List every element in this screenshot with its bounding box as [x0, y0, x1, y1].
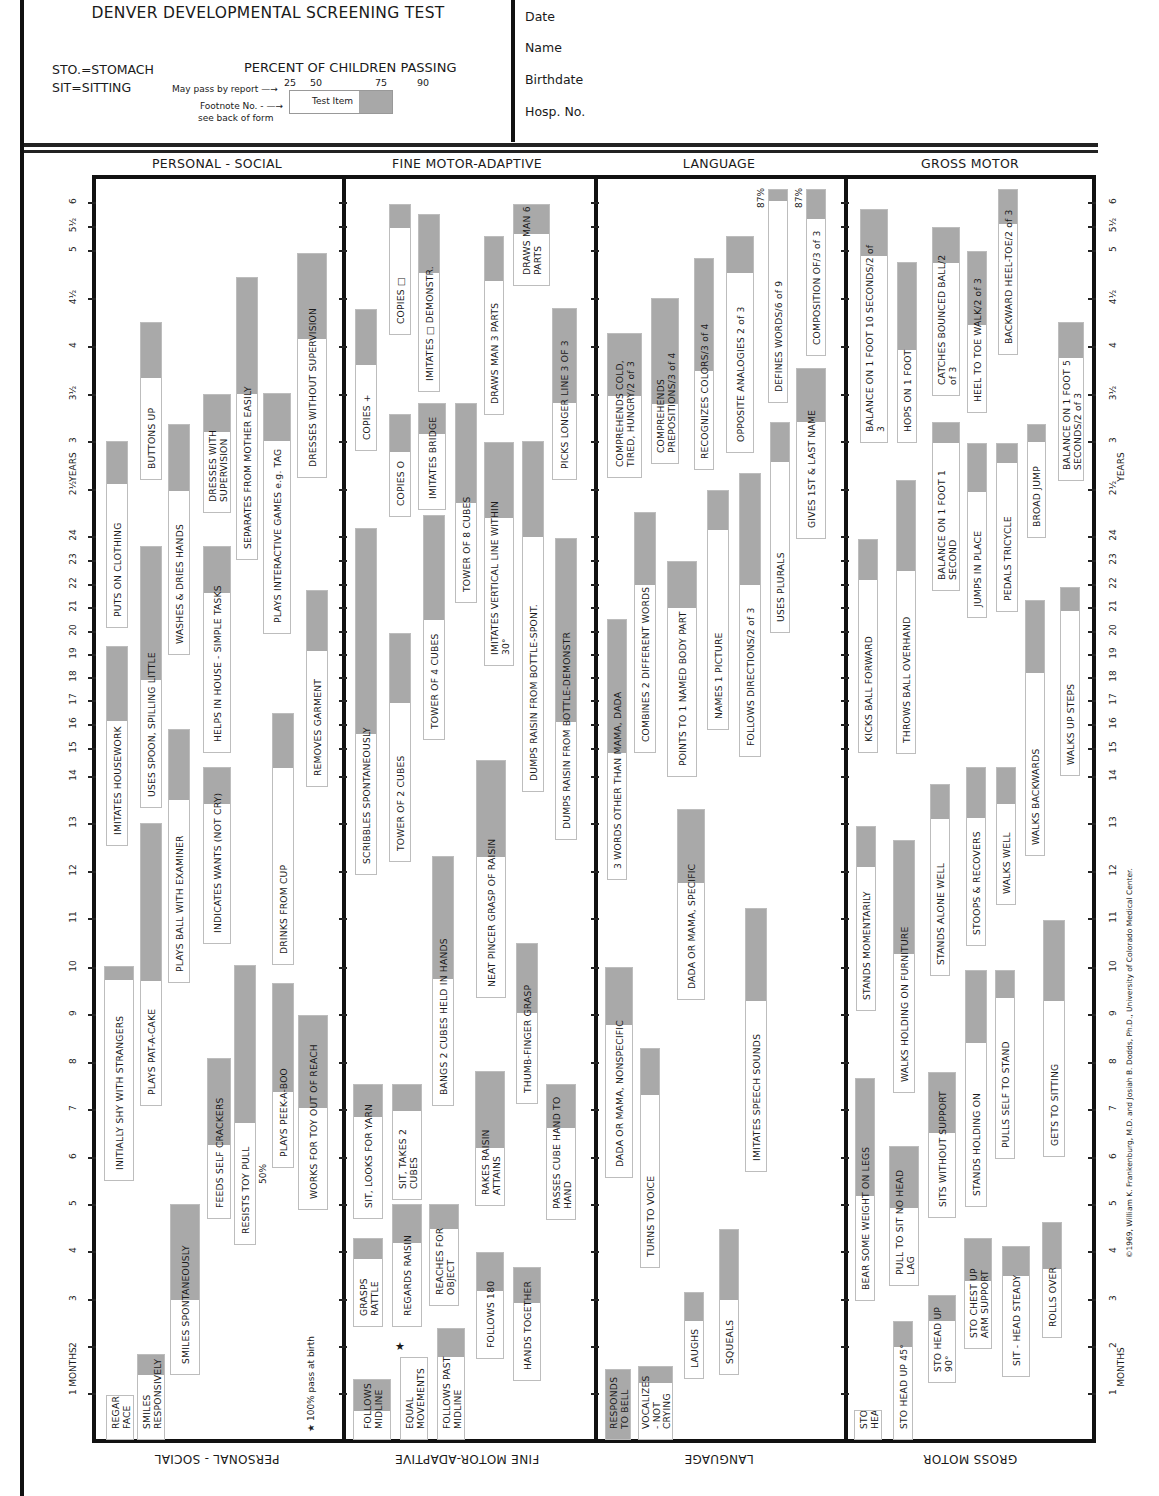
test-item-bar[interactable]: LAUGHS [684, 1292, 704, 1379]
test-item-bar[interactable]: BEAR SOME WEIGHT ON LEGS [855, 1078, 875, 1301]
test-item-bar[interactable]: TOWER OF 4 CUBES [423, 515, 445, 740]
test-item-bar[interactable]: EQUAL MOVEMENTS [400, 1357, 428, 1440]
test-item-bar[interactable]: COMPREHENDS PREPOSITIONS/3 of 4 [651, 298, 679, 464]
test-item-bar[interactable]: PULL TO SIT NO HEAD LAG [889, 1146, 919, 1286]
test-item-bar[interactable]: DRINKS FROM CUP [272, 713, 294, 965]
test-item-bar[interactable]: FOLLOWS TO MIDLINE [353, 1379, 391, 1440]
test-item-bar[interactable]: THROWS BALL OVERHAND [896, 480, 916, 754]
test-item-bar[interactable]: FOLLOWS 180 [476, 1252, 504, 1359]
test-item-bar[interactable]: PLAYS PAT-A-CAKE [140, 823, 162, 1106]
test-item-bar[interactable]: STANDS ALONE WELL [930, 784, 950, 976]
test-item-bar[interactable]: SITS WITHOUT SUPPORT [928, 1072, 956, 1218]
test-item-bar[interactable]: VOCALIZES - NOT CRYING [638, 1366, 673, 1440]
test-item-bar[interactable]: IMITATES SPEECH SOUNDS [745, 908, 767, 1172]
test-item-bar[interactable]: BANGS 2 CUBES HELD IN HANDS [432, 856, 454, 1106]
test-item-bar[interactable]: ROLLS OVER [1042, 1222, 1062, 1338]
test-item-bar[interactable]: STO CHEST UP ARM SUPPORT [964, 1238, 992, 1349]
test-item-bar[interactable]: DUMPS RAISIN FROM BOTTLE-DEMONSTR [555, 538, 577, 840]
test-item-bar[interactable]: POINTS TO 1 NAMED BODY PART [667, 561, 697, 777]
test-item-bar[interactable]: GETS TO SITTING [1043, 920, 1065, 1157]
test-item-bar[interactable]: BALANCE ON 1 FOOT 1 SECOND [932, 422, 960, 591]
test-item-bar[interactable]: RESPONDS TO BELL [605, 1369, 631, 1440]
test-item-bar[interactable]: SMILES RESPONSIVELY [137, 1354, 165, 1440]
test-item-bar[interactable]: HOPS ON 1 FOOT [897, 262, 917, 443]
test-item-bar[interactable]: PUTS ON CLOTHING [106, 441, 128, 628]
test-item-bar[interactable]: BALANCE ON 1 FOOT 5 SECONDS/2 of 3 [1058, 322, 1084, 481]
test-item-bar[interactable]: PLAYS PEEK-A-BOO [272, 983, 294, 1168]
test-item-bar[interactable]: IMITATES VERTICAL LINE WITHIN 30° [484, 442, 514, 666]
test-item-bar[interactable]: DRESSES WITHOUT SUPERVISION [297, 253, 327, 478]
test-item-bar[interactable]: HELPS IN HOUSE - SIMPLE TASKS [203, 546, 231, 753]
field-birthdate[interactable]: Birthdate [525, 72, 583, 87]
test-item-bar[interactable]: STANDS MOMENTARILY [856, 826, 876, 1011]
test-item-bar[interactable]: SIT - HEAD STEADY [1002, 1246, 1030, 1377]
test-item-bar[interactable]: DUMPS RAISIN FROM BOTTLE-SPONT. [522, 441, 544, 792]
test-item-bar[interactable]: IMITATES HOUSEWORK [106, 646, 128, 846]
test-item-bar[interactable]: REMOVES GARMENT [306, 590, 328, 787]
test-item-bar[interactable]: COMBINES 2 DIFFERENT WORDS [634, 512, 656, 753]
test-item-bar[interactable]: USES PLURALS [770, 422, 790, 633]
test-item-bar[interactable]: PULLS SELF TO STAND [995, 970, 1015, 1159]
test-item-bar[interactable]: DRAWS MAN 3 PARTS [484, 236, 504, 415]
test-item-bar[interactable]: STO HEAD UP 45° [893, 1321, 913, 1440]
test-item-bar[interactable]: TURNS TO VOICE [640, 1048, 660, 1268]
test-item-bar[interactable]: REACHES FOR OBJECT [429, 1204, 459, 1306]
test-item-bar[interactable]: STOOPS & RECOVERS [966, 767, 986, 946]
test-item-bar[interactable]: BUTTONS UP [140, 322, 162, 480]
field-date[interactable]: Date [525, 9, 555, 24]
test-item-bar[interactable]: BACKWARD HEEL-TOE/2 of 3 [998, 189, 1018, 355]
test-item-bar[interactable]: WORKS FOR TOY OUT OF REACH [298, 1015, 328, 1210]
test-item-bar[interactable]: COPIES + [355, 309, 377, 451]
test-item-bar[interactable]: RESISTS TOY PULL [234, 965, 256, 1245]
test-item-bar[interactable]: DEFINES WORDS/6 of 9 [768, 189, 788, 403]
test-item-bar[interactable]: INDICATES WANTS (NOT CRY) [203, 767, 231, 944]
test-item-bar[interactable]: SQUEALS [719, 1229, 739, 1375]
test-item-bar[interactable]: WALKS HOLDING ON FURNITURE [893, 840, 915, 1093]
test-item-bar[interactable]: TOWER OF 8 CUBES [455, 403, 477, 603]
test-item-bar[interactable]: PLAYS BALL WITH EXAMINER [168, 729, 190, 983]
test-item-bar[interactable]: OPPOSITE ANALOGIES 2 of 3 [726, 236, 754, 453]
test-item-bar[interactable]: NEAT PINCER GRASP OF RAISIN [476, 760, 506, 998]
test-item-bar[interactable]: THUMB-FINGER GRASP [516, 943, 538, 1104]
test-item-bar[interactable]: FOLLOWS PAST MIDLINE [437, 1328, 465, 1440]
test-item-bar[interactable]: SCRIBBLES SPONTANEOUSLY [355, 528, 377, 875]
test-item-bar[interactable]: HANDS TOGETHER [513, 1267, 541, 1381]
test-item-bar[interactable]: KICKS BALL FORWARD [858, 539, 878, 753]
test-item-bar[interactable]: COMPREHENDS COLD, TIRED, HUNGRY/2 of 3 [607, 333, 642, 478]
test-item-bar[interactable]: STO HEAD UP 90° [928, 1295, 956, 1383]
test-item-bar[interactable]: SMILES SPONTANEOUSLY [170, 1204, 200, 1375]
test-item-bar[interactable]: BROAD JUMP [1027, 424, 1046, 538]
test-item-bar[interactable]: PASSES CUBE HAND TO HAND [546, 1084, 576, 1220]
test-item-bar[interactable]: CATCHES BOUNCED BALL/2 of 3 [932, 227, 960, 396]
test-item-bar[interactable]: DADA OR MAMA, NONSPECIFIC [605, 967, 633, 1178]
test-item-bar[interactable]: COMPOSITION OF/3 of 3 [806, 189, 826, 356]
test-item-bar[interactable]: SIT, TAKES 2 CUBES [392, 1084, 422, 1200]
test-item-bar[interactable]: INITIALLY SHY WITH STRANGERS [104, 966, 134, 1181]
test-item-bar[interactable]: 3 WORDS OTHER THAN MAMA, DADA [607, 619, 627, 880]
field-hosp-no[interactable]: Hosp. No. [525, 104, 585, 119]
test-item-bar[interactable]: COPIES □ [389, 204, 411, 335]
test-item-bar[interactable]: GIVES 1ST & LAST NAME [796, 368, 826, 539]
test-item-bar[interactable]: COPIES O [389, 414, 411, 517]
test-item-bar[interactable]: DADA OR MAMA, SPECIFIC [677, 809, 705, 1000]
test-item-bar[interactable]: IMITATES BRIDGE [418, 403, 446, 510]
test-item-bar[interactable]: IMITATES □ DEMONSTR. [418, 214, 440, 392]
test-item-bar[interactable]: HEEL TO TOE WALK/2 of 3 [967, 251, 987, 413]
test-item-bar[interactable]: WALKS UP STEPS [1060, 587, 1080, 776]
test-item-bar[interactable]: RAKES RAISIN ATTAINS [475, 1071, 505, 1206]
test-item-bar[interactable]: USES SPOON, SPILLING LITTLE [140, 546, 162, 808]
test-item-bar[interactable]: JUMPS IN PLACE [967, 443, 987, 618]
test-item-bar[interactable]: DRESSES WITH SUPERVISION [203, 394, 231, 513]
test-item-bar[interactable]: PICKS LONGER LINE 3 OF 3 [552, 308, 577, 480]
test-item-bar[interactable]: SIT, LOOKS FOR YARN [353, 1084, 383, 1219]
test-item-bar[interactable]: FOLLOWS DIRECTIONS/2 of 3 [739, 473, 761, 757]
test-item-bar[interactable]: TOWER OF 2 CUBES [389, 633, 411, 862]
test-item-bar[interactable]: REGARDS FACE [106, 1395, 134, 1440]
test-item-bar[interactable]: STANDS HOLDING ON [965, 970, 987, 1207]
test-item-bar[interactable]: BALANCE ON 1 FOOT 10 SECONDS/2 of 3 [860, 209, 888, 443]
test-item-bar[interactable]: WALKS WELL [996, 767, 1016, 905]
test-item-bar[interactable]: GRASPS RATTLE [353, 1238, 383, 1327]
test-item-bar[interactable]: SEPARATES FROM MOTHER EASILY [236, 277, 258, 560]
test-item-bar[interactable]: DRAWS MAN 6 PARTS [513, 204, 550, 286]
test-item-bar[interactable]: FEEDS SELF CRACKERS [207, 1058, 231, 1219]
